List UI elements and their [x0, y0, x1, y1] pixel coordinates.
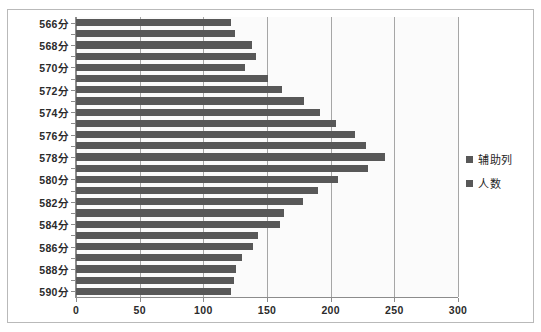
y-axis-label: 586分 [39, 239, 68, 254]
y-axis-tick [71, 202, 75, 203]
y-axis-tick [71, 168, 75, 169]
y-axis-tick [71, 157, 75, 158]
y-axis-tick [71, 56, 75, 57]
bar[interactable] [76, 109, 320, 116]
bar[interactable] [76, 165, 368, 172]
bar[interactable] [76, 142, 366, 149]
y-axis-tick [71, 112, 75, 113]
y-axis-tick [71, 247, 75, 248]
y-axis-tick [71, 67, 75, 68]
bar[interactable] [76, 288, 231, 295]
bar[interactable] [76, 232, 258, 239]
y-axis-tick [71, 146, 75, 147]
bar[interactable] [76, 254, 242, 261]
bar[interactable] [76, 153, 385, 160]
y-axis-tick [71, 235, 75, 236]
y-axis-tick [71, 79, 75, 80]
x-axis-label: 250 [385, 304, 403, 316]
bar[interactable] [76, 265, 236, 272]
x-axis-tick [76, 298, 77, 302]
bar[interactable] [76, 277, 234, 284]
bar[interactable] [76, 243, 253, 250]
y-axis-label: 570分 [39, 60, 68, 75]
y-axis-tick [71, 258, 75, 259]
y-axis-label: 590分 [39, 284, 68, 299]
y-axis-label: 578分 [39, 150, 68, 165]
legend-label: 人数 [478, 175, 501, 191]
bar[interactable] [76, 198, 303, 205]
y-axis-tick [71, 269, 75, 270]
y-axis-tick [71, 23, 75, 24]
legend-swatch-icon [466, 180, 473, 187]
bar[interactable] [76, 97, 304, 104]
y-axis-tick [71, 45, 75, 46]
bar[interactable] [76, 41, 252, 48]
bar[interactable] [76, 176, 338, 183]
bar[interactable] [76, 131, 355, 138]
y-axis-label: 576分 [39, 127, 68, 142]
y-axis-tick [71, 90, 75, 91]
x-axis-tick [458, 298, 459, 302]
y-axis-tick [71, 101, 75, 102]
chart-frame: 566分568分570分572分574分576分578分580分582分584分… [7, 9, 534, 323]
y-axis-tick [71, 224, 75, 225]
y-axis-label: 584分 [39, 217, 68, 232]
x-axis-label: 300 [449, 304, 467, 316]
plot-area [76, 17, 458, 297]
y-axis-tick [71, 213, 75, 214]
legend-item[interactable]: 辅助列 [466, 151, 530, 167]
x-axis-tick [140, 298, 141, 302]
y-axis-label: 568分 [39, 38, 68, 53]
x-axis-label: 50 [134, 304, 146, 316]
bar[interactable] [76, 86, 282, 93]
chart-legend: 辅助列人数 [466, 151, 530, 199]
bar[interactable] [76, 53, 256, 60]
x-axis-label: 0 [73, 304, 79, 316]
y-axis-label: 588分 [39, 262, 68, 277]
y-axis-tick [71, 135, 75, 136]
y-axis-tick [71, 34, 75, 35]
x-axis-tick [267, 298, 268, 302]
x-axis-tick [203, 298, 204, 302]
y-axis-tick [71, 191, 75, 192]
x-axis-label: 200 [321, 304, 339, 316]
bar[interactable] [76, 221, 280, 228]
y-axis-label: 582分 [39, 194, 68, 209]
legend-swatch-icon [466, 156, 473, 163]
y-axis-tick [71, 280, 75, 281]
bar-series-group [76, 17, 458, 297]
x-axis-tick [331, 298, 332, 302]
x-axis-tick [394, 298, 395, 302]
legend-label: 辅助列 [478, 151, 513, 167]
bar[interactable] [76, 30, 235, 37]
y-axis-line [75, 17, 76, 298]
bar[interactable] [76, 64, 245, 71]
y-axis-label: 572分 [39, 82, 68, 97]
bar[interactable] [76, 187, 318, 194]
x-axis-label: 150 [258, 304, 276, 316]
legend-item[interactable]: 人数 [466, 175, 530, 191]
bar[interactable] [76, 209, 284, 216]
y-axis-tick [71, 291, 75, 292]
gridline-300 [458, 17, 459, 297]
bar[interactable] [76, 120, 336, 127]
bar[interactable] [76, 19, 231, 26]
y-axis-label: 580分 [39, 172, 68, 187]
y-axis-label: 566分 [39, 15, 68, 30]
y-axis-tick [71, 179, 75, 180]
y-axis-label: 574分 [39, 105, 68, 120]
bar[interactable] [76, 75, 268, 82]
y-axis-tick [71, 123, 75, 124]
x-axis-label: 100 [194, 304, 212, 316]
